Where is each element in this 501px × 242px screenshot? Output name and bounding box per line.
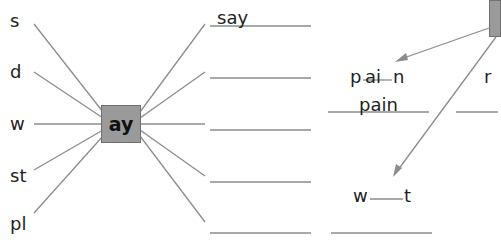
grapheme-box: ay — [101, 105, 141, 143]
answer-1[interactable]: say — [217, 9, 248, 27]
onset-s: s — [10, 12, 19, 30]
word-pain-prefix: p — [350, 68, 361, 86]
word-wt-prefix: w — [353, 187, 368, 205]
onset-pl: pl — [10, 215, 26, 233]
word-pain-grapheme: ai — [365, 68, 381, 86]
word-wt-suffix: t — [404, 187, 411, 205]
word-r-prefix: r — [484, 68, 491, 86]
onset-w: w — [10, 115, 25, 133]
onset-st: st — [10, 167, 26, 185]
onset-d: d — [10, 63, 21, 81]
top-right-box — [489, 0, 501, 37]
word-pain-suffix: n — [393, 68, 404, 86]
grapheme-label: ay — [102, 106, 140, 142]
word-pain-answer[interactable]: pain — [359, 96, 398, 114]
